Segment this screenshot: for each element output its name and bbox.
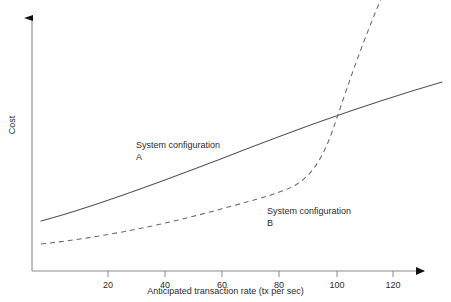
series-annotation-a: System configuration A	[136, 139, 220, 163]
series-annotation-b-line2: B	[267, 217, 351, 229]
series-line-system-configuration-a	[41, 82, 442, 221]
chart-canvas	[0, 0, 451, 302]
series-annotation-a-line2: A	[136, 151, 220, 163]
x-axis-label: Anticipated transaction rate (tx per sec…	[0, 286, 451, 297]
series-annotation-b-line1: System configuration	[267, 205, 351, 217]
chart-figure: 20 40 60 80 100 120 Anticipated transact…	[0, 0, 451, 302]
y-axis-label: Cost	[7, 105, 17, 145]
series-annotation-b: System configuration B	[267, 205, 351, 229]
x-axis-ticks	[108, 271, 393, 277]
series-annotation-a-line1: System configuration	[136, 139, 220, 151]
